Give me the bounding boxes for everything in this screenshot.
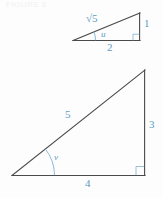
lower-triangle-adjacent-label: 4 [85,177,91,189]
upper-triangle-hypotenuse-side [73,13,140,41]
lower-triangle-right-angle-marker [136,167,144,176]
lower-triangle-hypotenuse-side [12,70,145,176]
lower-triangle-angle-label: v [54,152,58,162]
upper-triangle-adjacent-label: 2 [107,41,113,53]
upper-triangle-angle-arc [94,32,96,41]
triangles-drawing [0,0,163,198]
upper-triangle-right-angle-marker [133,34,139,40]
lower-triangle-hypotenuse-label: 5 [65,108,71,120]
radicand-value: 5 [92,12,98,24]
upper-triangle-opposite-label: 1 [144,17,150,29]
figure-container: FIGURE 6 √ [0,0,163,198]
upper-triangle-angle-label: u [101,29,106,39]
upper-triangle-hypotenuse-label: √5 [86,12,98,24]
upper-triangle-shape [73,13,140,41]
lower-triangle-opposite-label: 3 [149,118,155,130]
lower-triangle-shape [12,70,145,176]
